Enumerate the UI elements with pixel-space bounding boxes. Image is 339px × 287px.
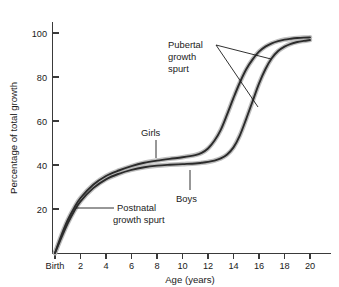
x-tick-label-16: 16 [254, 261, 264, 271]
postnatal-label-line2: growth spurt [113, 214, 165, 225]
x-tick-label-10: 10 [177, 261, 187, 271]
x-ticks-group [55, 254, 310, 260]
x-tick-label-12: 12 [203, 261, 213, 271]
annotation-girls: Girls [141, 127, 161, 158]
annotation-postnatal: Postnatal growth spurt [76, 202, 165, 225]
y-tick-label-60: 60 [37, 117, 47, 127]
pubertal-label-line1: Pubertal [168, 39, 203, 50]
y-tick-label-40: 40 [37, 161, 47, 171]
growth-curve-chart: 100 80 60 40 20 Percentage of total grow… [0, 0, 339, 287]
annotation-boys: Boys [176, 170, 197, 204]
x-tick-label-20: 20 [305, 261, 315, 271]
y-tick-label-20: 20 [37, 205, 47, 215]
x-axis-title: Age (years) [165, 274, 215, 285]
x-tick-labels-group: Birth 2 4 6 8 10 12 14 16 18 20 [46, 261, 316, 271]
pubertal-label-line3: spurt [168, 63, 189, 74]
x-tick-label-2: 2 [78, 261, 83, 271]
x-tick-label-18: 18 [279, 261, 289, 271]
y-tick-label-100: 100 [32, 29, 47, 39]
y-axis-title: Percentage of total growth [8, 82, 19, 194]
x-tick-label-4: 4 [103, 261, 108, 271]
x-tick-label-6: 6 [129, 261, 134, 271]
girls-label: Girls [141, 127, 161, 138]
postnatal-label-line1: Postnatal [117, 202, 156, 213]
y-tick-labels-group: 100 80 60 40 20 [32, 29, 47, 215]
y-tick-label-80: 80 [37, 73, 47, 83]
pubertal-label-line2: growth [168, 51, 196, 62]
chart-canvas: 100 80 60 40 20 Percentage of total grow… [0, 0, 339, 287]
boys-label: Boys [176, 193, 197, 204]
x-tick-label-birth: Birth [46, 261, 65, 271]
y-ticks-group [53, 33, 59, 209]
x-tick-label-8: 8 [154, 261, 159, 271]
x-tick-label-14: 14 [228, 261, 238, 271]
